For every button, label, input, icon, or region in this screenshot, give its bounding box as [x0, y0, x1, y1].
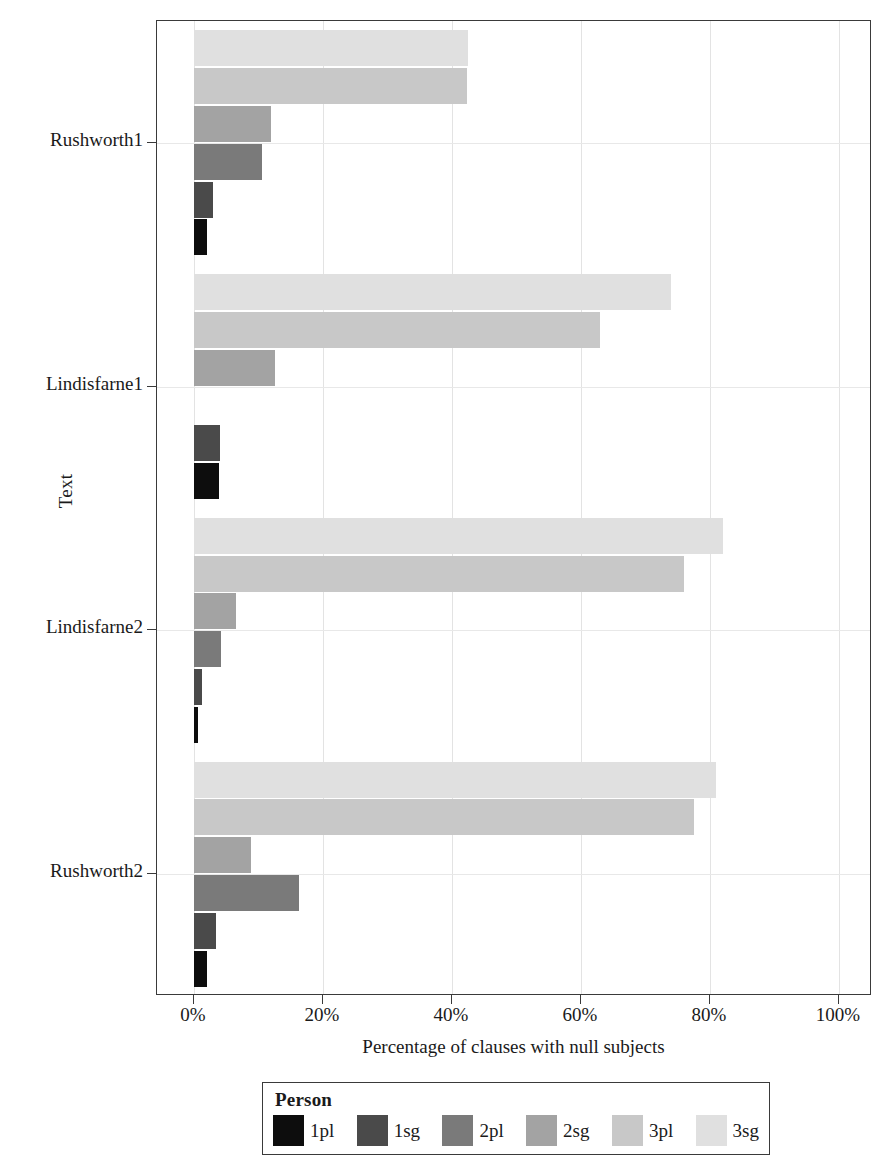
bar	[194, 556, 684, 592]
gridline-horizontal	[157, 143, 870, 144]
y-axis-tick-label: Rushworth2	[0, 860, 143, 882]
bar	[194, 631, 221, 667]
legend-label: 1pl	[310, 1120, 334, 1142]
bar	[194, 182, 213, 218]
bar	[194, 707, 198, 743]
gridline-vertical	[581, 21, 582, 994]
y-axis-tick-label: Lindisfarne1	[0, 373, 143, 395]
plot-area	[157, 21, 870, 994]
legend-label: 2sg	[563, 1120, 589, 1142]
bar-chart-figure: Text Rushworth1Lindisfarne1Lindisfarne2R…	[0, 0, 891, 1173]
bar	[194, 274, 671, 310]
gridline-vertical	[452, 21, 453, 994]
legend-items: 1pl1sg2pl2sg3pl3sg	[273, 1115, 759, 1146]
legend-item: 1pl	[273, 1115, 334, 1146]
legend-swatch	[612, 1115, 643, 1146]
x-axis-title: Percentage of clauses with null subjects	[156, 1036, 871, 1058]
y-axis-tick	[147, 386, 156, 387]
gridline-horizontal	[157, 630, 870, 631]
x-axis-tick-label: 40%	[411, 1004, 491, 1026]
bar	[194, 219, 207, 255]
bar	[194, 951, 207, 987]
legend-label: 1sg	[394, 1120, 420, 1142]
legend-label: 3pl	[649, 1120, 673, 1142]
legend-item: 1sg	[357, 1115, 420, 1146]
bar	[194, 425, 220, 461]
legend-swatch	[357, 1115, 388, 1146]
y-axis-tick	[147, 873, 156, 874]
x-axis-tick-label: 0%	[153, 1004, 233, 1026]
gridline-vertical	[710, 21, 711, 994]
legend-item: 2sg	[526, 1115, 589, 1146]
y-axis-tick	[147, 629, 156, 630]
gridline-horizontal	[157, 387, 870, 388]
legend-label: 3sg	[733, 1120, 759, 1142]
bar	[194, 144, 262, 180]
y-axis-tick-label: Lindisfarne2	[0, 616, 143, 638]
bar	[194, 669, 202, 705]
x-axis-tick	[580, 995, 581, 1004]
bar	[194, 875, 299, 911]
legend-item: 2pl	[442, 1115, 503, 1146]
legend-label: 2pl	[479, 1120, 503, 1142]
x-axis-tick	[451, 995, 452, 1004]
bar	[194, 593, 236, 629]
bar	[194, 762, 716, 798]
x-axis-tick	[838, 995, 839, 1004]
x-axis-tick-label: 60%	[540, 1004, 620, 1026]
y-axis-tick-label: Rushworth1	[0, 129, 143, 151]
x-axis-tick	[322, 995, 323, 1004]
bar	[194, 350, 275, 386]
y-axis-title: Text	[55, 431, 77, 551]
legend-title: Person	[275, 1089, 759, 1111]
legend-swatch	[273, 1115, 304, 1146]
bar	[194, 799, 694, 835]
bar	[194, 518, 723, 554]
y-axis-tick	[147, 142, 156, 143]
x-axis-tick-label: 100%	[798, 1004, 878, 1026]
bar	[194, 68, 467, 104]
legend-swatch	[442, 1115, 473, 1146]
bar	[194, 913, 216, 949]
legend-swatch	[526, 1115, 557, 1146]
bar	[194, 30, 468, 66]
bar	[194, 837, 251, 873]
x-axis-tick-label: 80%	[669, 1004, 749, 1026]
x-axis-tick-label: 20%	[282, 1004, 362, 1026]
bar	[194, 312, 600, 348]
gridline-vertical	[323, 21, 324, 994]
legend-swatch	[696, 1115, 727, 1146]
x-axis-tick	[709, 995, 710, 1004]
bar	[194, 106, 271, 142]
x-axis-tick	[193, 995, 194, 1004]
legend: Person 1pl1sg2pl2sg3pl3sg	[262, 1082, 770, 1155]
legend-item: 3sg	[696, 1115, 759, 1146]
bar	[194, 463, 219, 499]
plot-panel	[156, 20, 871, 995]
legend-item: 3pl	[612, 1115, 673, 1146]
gridline-vertical	[839, 21, 840, 994]
